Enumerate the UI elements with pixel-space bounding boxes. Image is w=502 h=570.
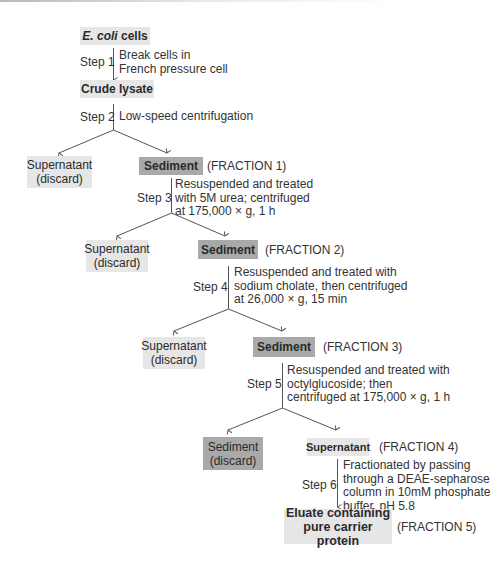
step-3-line-2: with 5M urea; centrifuged xyxy=(175,192,313,206)
step-1-line-1: Break cells in xyxy=(119,49,228,63)
step-5-line-1: Resuspended and treated with xyxy=(287,364,450,378)
sup2-line-1: Supernatant xyxy=(84,242,149,256)
node-supernatant-fraction-4: Supernatant xyxy=(307,438,369,456)
sed4-line-1: Sediment xyxy=(208,440,259,454)
step-1-line-2: French pressure cell xyxy=(119,63,228,77)
fraction-4-label: (FRACTION 4) xyxy=(379,440,458,454)
node-ecoli-cells: E. coli cells xyxy=(80,27,150,45)
sup3-line-2: (discard) xyxy=(151,353,198,367)
eluate-line-1: Eluate containing xyxy=(286,506,390,520)
eluate-line-2: pure carrier protein xyxy=(284,520,392,548)
fraction-2-label: (FRACTION 2) xyxy=(265,243,344,257)
step-1-desc: Break cells in French pressure cell xyxy=(119,49,228,76)
step-2-label: Step 2 xyxy=(80,110,115,124)
node-crude-lysate: Crude lysate xyxy=(80,80,154,98)
step-3-line-1: Resuspended and treated xyxy=(175,178,313,192)
step-5-label: Step 5 xyxy=(247,377,282,391)
ecoli-italic: E. coli xyxy=(82,29,117,43)
sup1-line-1: Supernatant xyxy=(27,158,92,172)
node-eluate-fraction-5: Eluate containing pure carrier protein xyxy=(284,509,392,544)
step-5-line-2: octylglucoside; then xyxy=(287,378,450,392)
node-supernatant-discard-2: Supernatant (discard) xyxy=(86,240,148,272)
step-4-line-1: Resuspended and treated with xyxy=(234,266,407,280)
step-3-line-3: at 175,000 × g, 1 h xyxy=(175,205,313,219)
step-4-line-3: at 26,000 × g, 15 min xyxy=(234,293,407,307)
sed4-line-2: (discard) xyxy=(210,454,257,468)
node-supernatant-discard-3: Supernatant (discard) xyxy=(143,337,205,369)
step-1-label: Step 1 xyxy=(80,55,115,69)
node-sediment-fraction-3: Sediment xyxy=(253,337,315,357)
node-sediment-discard: Sediment (discard) xyxy=(203,437,263,470)
step-3-label: Step 3 xyxy=(137,191,172,205)
step-6-line-3: column in 10mM phosphate xyxy=(343,486,490,500)
sup2-line-2: (discard) xyxy=(94,256,141,270)
fraction-1-label: (FRACTION 1) xyxy=(207,159,286,173)
node-sediment-fraction-2: Sediment xyxy=(198,240,258,259)
step-4-desc: Resuspended and treated with sodium chol… xyxy=(234,266,407,307)
sup1-line-2: (discard) xyxy=(36,172,83,186)
fraction-3-label: (FRACTION 3) xyxy=(323,340,402,354)
node-supernatant-discard-1: Supernatant (discard) xyxy=(27,156,92,188)
step-4-label: Step 4 xyxy=(193,280,228,294)
fraction-5-label: (FRACTION 5) xyxy=(397,520,476,534)
node-sediment-fraction-1: Sediment xyxy=(139,157,203,175)
step-2-desc: Low-speed centrifugation xyxy=(119,110,253,124)
step-6-line-2: through a DEAE-sepharose xyxy=(343,473,490,487)
step-3-desc: Resuspended and treated with 5M urea; ce… xyxy=(175,178,313,219)
step-5-line-3: centrifuged at 175,000 × g, 1 h xyxy=(287,391,450,405)
sup3-line-1: Supernatant xyxy=(141,339,206,353)
step-6-line-1: Fractionated by passing xyxy=(343,459,490,473)
ecoli-rest: cells xyxy=(118,29,148,43)
step-5-desc: Resuspended and treated with octylglucos… xyxy=(287,364,450,405)
step-2-line-1: Low-speed centrifugation xyxy=(119,110,253,124)
step-4-line-2: sodium cholate, then centrifuged xyxy=(234,280,407,294)
node-ecoli-label: E. coli cells xyxy=(82,29,147,43)
step-6-label: Step 6 xyxy=(302,478,337,492)
